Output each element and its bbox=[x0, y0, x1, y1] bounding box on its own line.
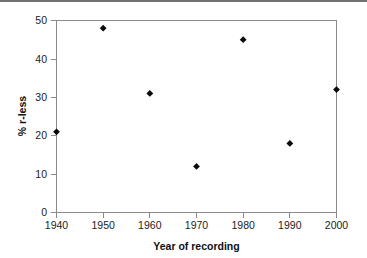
y-axis-title: % r-less bbox=[16, 96, 28, 136]
x-tick-label-1960: 1960 bbox=[138, 219, 162, 231]
y-tick-label-20: 20 bbox=[35, 129, 47, 141]
plot-svg: 50 40 30 20 10 0 1940 1950 19 bbox=[0, 0, 367, 258]
data-point-group bbox=[53, 25, 340, 170]
y-axis-ticks bbox=[51, 21, 57, 213]
y-tick-label-10: 10 bbox=[35, 168, 47, 180]
data-point-marker bbox=[240, 36, 247, 43]
x-tick-label-2000: 2000 bbox=[325, 219, 349, 231]
x-tick-label-1950: 1950 bbox=[92, 219, 116, 231]
data-point-marker bbox=[100, 25, 107, 32]
y-tick-label-0: 0 bbox=[41, 206, 47, 218]
y-axis-tick-labels: 50 40 30 20 10 0 bbox=[35, 14, 47, 218]
y-tick-label-40: 40 bbox=[35, 53, 47, 65]
data-point-marker bbox=[286, 140, 293, 147]
x-tick-label-1990: 1990 bbox=[278, 219, 302, 231]
x-axis-title: Year of recording bbox=[153, 240, 239, 252]
plot-frame bbox=[57, 21, 337, 213]
data-point-marker bbox=[333, 86, 340, 93]
x-tick-label-1940: 1940 bbox=[45, 219, 69, 231]
data-point-marker bbox=[193, 163, 200, 170]
scatter-chart: 50 40 30 20 10 0 1940 1950 19 bbox=[0, 0, 367, 258]
y-tick-label-30: 30 bbox=[35, 91, 47, 103]
data-point-marker bbox=[146, 90, 153, 97]
x-axis-tick-labels: 1940 1950 1960 1970 1980 1990 2000 bbox=[45, 219, 349, 231]
x-tick-label-1970: 1970 bbox=[185, 219, 209, 231]
x-tick-label-1980: 1980 bbox=[232, 219, 256, 231]
figure-container: 50 40 30 20 10 0 1940 1950 19 bbox=[0, 0, 367, 258]
data-point-marker bbox=[53, 128, 60, 135]
x-axis-ticks bbox=[57, 213, 337, 219]
y-tick-label-50: 50 bbox=[35, 14, 47, 26]
